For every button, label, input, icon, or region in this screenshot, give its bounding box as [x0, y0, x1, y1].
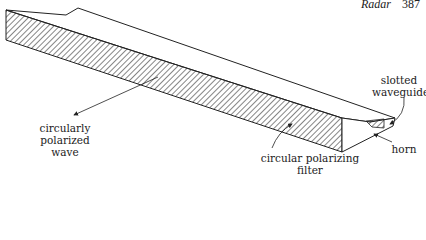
label-circular-polarizing-filter: circular polarizing filter: [250, 152, 370, 176]
horn-leader: [374, 134, 392, 142]
circularly-polarized-arrow: [74, 77, 158, 115]
label-circularly-polarized-wave: circularly polarized wave: [25, 122, 105, 158]
label-slotted-waveguide: slotted waveguide: [372, 74, 426, 98]
label-horn: horn: [384, 143, 424, 155]
